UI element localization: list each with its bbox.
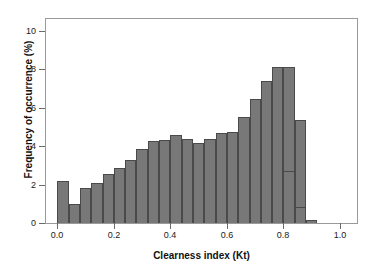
x-axis-tick-label: 0.4 [150,231,190,240]
histogram-bar [204,139,215,223]
x-axis-tick [114,223,115,229]
plot-area [46,19,357,223]
x-axis-tick [227,223,228,229]
histogram-bar [238,117,249,223]
histogram-bar [306,220,317,223]
histogram-bar [103,174,114,223]
histogram-bar [80,188,91,223]
x-axis-tick-label: 0.6 [207,231,247,240]
histogram-bar [57,181,68,223]
y-axis-tick [39,185,45,186]
histogram-bar [216,133,227,223]
histogram-figure: 02468100.00.20.40.60.81.0 Frequency of o… [0,0,377,276]
x-axis-tick-label: 0.8 [263,231,303,240]
histogram-bar [272,67,283,223]
x-axis-tick [283,223,284,229]
histogram-bar [114,168,125,223]
histogram-bar [125,160,136,223]
histogram-bar [227,132,238,223]
x-axis-tick [170,223,171,229]
y-axis-tick-label: 0 [0,219,36,228]
histogram-bar [182,139,193,223]
x-axis-tick [57,223,58,229]
x-axis-tick-label: 1.0 [320,231,360,240]
y-axis-tick [39,31,45,32]
histogram-bar [250,99,261,223]
histogram-bar [159,140,170,223]
y-axis-tick [39,146,45,147]
histogram-bar [283,171,294,223]
y-axis-tick [39,69,45,70]
x-axis-tick-label: 0.2 [94,231,134,240]
histogram-bar [69,204,80,223]
histogram-bar [170,135,181,223]
histogram-bar [148,141,159,223]
x-axis-tick-label: 0.0 [37,231,77,240]
y-axis-tick [39,108,45,109]
y-axis-tick [39,223,45,224]
histogram-bar [193,143,204,223]
x-axis-title: Clearness index (Kt) [45,250,358,261]
histogram-bar [136,149,147,223]
y-axis-title: Frequency of occurrence (%) [23,0,34,220]
x-axis-tick [340,223,341,229]
histogram-bar [295,207,306,223]
histogram-bar [261,81,272,223]
histogram-bar [91,183,102,223]
